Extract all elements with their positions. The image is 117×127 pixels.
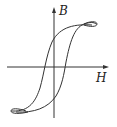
- b-axis-label: B: [59, 5, 68, 17]
- hysteresis-diagram: B H: [0, 0, 117, 127]
- h-axis-label: H: [96, 72, 106, 84]
- hysteresis-plot: [0, 0, 117, 127]
- hysteresis-upper-branch: [12, 25, 92, 111]
- b-axis-arrow-icon: [52, 7, 56, 13]
- h-axis-arrow-icon: [103, 65, 109, 69]
